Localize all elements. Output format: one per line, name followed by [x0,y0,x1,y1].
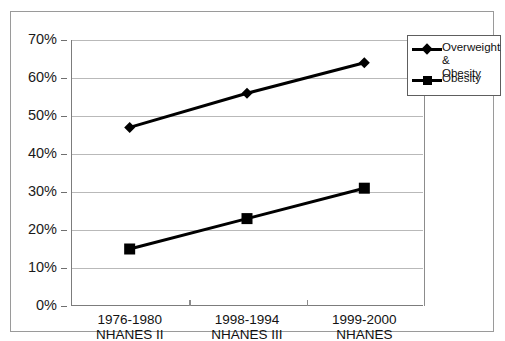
data-point-square [124,244,135,255]
y-tick-mark [61,116,67,117]
data-point-diamond [124,122,135,133]
legend: Overweight & Obesity Obesity [407,35,501,96]
chart-root: 70%60%50%40%30%20%10%0% 1976-1980NHANES … [0,0,505,341]
x-category-line: 1976-1980 [71,312,188,327]
y-tick-label: 10% [28,260,57,275]
y-tick-label: 30% [28,184,57,199]
y-tick-mark [61,268,67,269]
y-tick-label: 20% [28,222,57,237]
x-category-label: 1976-1980NHANES II [71,312,188,341]
square-marker-icon [412,73,442,87]
chart-outer-frame: 70%60%50%40%30%20%10%0% 1976-1980NHANES … [10,11,494,332]
x-category-line: NHANES III [188,327,305,341]
x-category-line: NHANES [306,327,423,341]
x-category-label: 1998-1994NHANES III [188,312,305,341]
y-tick-label: 70% [28,32,57,47]
y-tick-label: 60% [28,70,57,85]
y-tick-label: 50% [28,108,57,123]
y-tick-label: 0% [36,298,57,313]
x-category-line: 1999-2000 [306,312,423,327]
y-tick-mark [61,78,67,79]
x-category-line: NHANES II [71,327,188,341]
data-point-diamond [242,88,253,99]
data-point-square [242,213,253,224]
legend-label-obesity: Obesity [442,72,481,85]
y-tick-label: 40% [28,146,57,161]
x-axis-labels: 1976-1980NHANES II1998-1994NHANES III199… [71,312,423,341]
y-axis: 70%60%50%40%30%20%10%0% [21,40,67,306]
data-point-square [359,183,370,194]
x-category-line: 1998-1994 [188,312,305,327]
series-layer [71,40,423,306]
y-tick-mark [61,154,67,155]
x-category-label: 1999-2000NHANES [306,312,423,341]
diamond-marker-icon [412,42,442,56]
legend-item-obesity[interactable]: Obesity [412,72,481,87]
data-point-diamond [359,57,370,68]
y-tick-mark [61,230,67,231]
y-tick-mark [61,306,67,307]
y-tick-mark [61,192,67,193]
y-tick-mark [61,40,67,41]
